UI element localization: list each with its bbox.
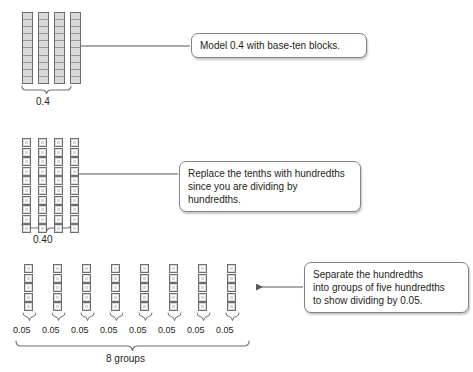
hundredth-unit bbox=[82, 264, 91, 273]
group-value-label: 0.05 bbox=[216, 325, 234, 336]
hundredth-unit bbox=[38, 148, 47, 157]
hundredth-unit bbox=[111, 293, 120, 302]
hundredth-unit bbox=[70, 215, 79, 224]
bracket-step-1 bbox=[22, 86, 71, 94]
hundredth-unit bbox=[82, 283, 91, 292]
hundredth-unit bbox=[38, 167, 47, 176]
hundredth-unit bbox=[22, 224, 31, 233]
hundredth-unit bbox=[227, 264, 236, 273]
hundredth-unit bbox=[22, 148, 31, 157]
hundredth-unit bbox=[53, 283, 62, 292]
bracket-label-step-2: 0.40 bbox=[33, 234, 52, 245]
hundredth-unit bbox=[22, 205, 31, 214]
bracket-label-step-1: 0.4 bbox=[36, 96, 50, 107]
hundredth-unit bbox=[169, 264, 178, 273]
hundredth-unit bbox=[54, 215, 63, 224]
hundredth-unit bbox=[54, 167, 63, 176]
hundredth-unit bbox=[198, 293, 207, 302]
group-value-label: 0.05 bbox=[100, 325, 118, 336]
hundredth-unit bbox=[198, 283, 207, 292]
hundredth-unit bbox=[70, 224, 79, 233]
hundredth-unit bbox=[111, 302, 120, 311]
hundredth-unit bbox=[140, 274, 149, 283]
figure-canvas: 0.4 Model 0.4 with base-ten blocks. 0.40… bbox=[0, 0, 473, 372]
hundredth-unit bbox=[38, 196, 47, 205]
callout-step-3: Separate the hundredths into groups of f… bbox=[304, 262, 469, 313]
hundredth-unit bbox=[111, 274, 120, 283]
tenth-rod bbox=[38, 12, 49, 84]
hundredth-unit bbox=[70, 205, 79, 214]
hundredth-unit bbox=[140, 302, 149, 311]
hundredth-unit bbox=[169, 302, 178, 311]
hundredth-unit bbox=[54, 148, 63, 157]
hundredth-unit bbox=[82, 293, 91, 302]
hundredth-unit bbox=[22, 138, 31, 147]
group-value-label: 0.05 bbox=[42, 325, 60, 336]
hundredth-unit bbox=[70, 196, 79, 205]
hundredth-unit bbox=[198, 302, 207, 311]
hundredth-unit bbox=[140, 283, 149, 292]
hundredth-unit bbox=[24, 302, 33, 311]
hundredth-unit bbox=[54, 157, 63, 166]
hundredth-unit bbox=[140, 293, 149, 302]
hundredth-unit bbox=[82, 274, 91, 283]
hundredth-unit bbox=[22, 157, 31, 166]
hundredth-unit bbox=[54, 205, 63, 214]
hundredth-unit bbox=[38, 138, 47, 147]
group-value-label: 0.05 bbox=[13, 325, 31, 336]
hundredth-unit bbox=[22, 186, 31, 195]
group-value-label: 0.05 bbox=[71, 325, 89, 336]
bracket-label-step-3: 8 groups bbox=[106, 353, 145, 364]
hundredth-unit bbox=[38, 186, 47, 195]
hundredth-unit bbox=[227, 302, 236, 311]
hundredth-unit bbox=[22, 176, 31, 185]
hundredth-unit bbox=[38, 215, 47, 224]
hundredth-unit bbox=[22, 215, 31, 224]
hundredth-unit bbox=[53, 274, 62, 283]
hundredth-unit bbox=[70, 176, 79, 185]
hundredth-unit bbox=[54, 176, 63, 185]
hundredth-unit bbox=[54, 196, 63, 205]
hundredth-unit bbox=[24, 283, 33, 292]
tenth-rod bbox=[54, 12, 65, 84]
hundredth-unit bbox=[82, 302, 91, 311]
hundredth-unit bbox=[53, 302, 62, 311]
hundredth-unit bbox=[70, 167, 79, 176]
hundredth-unit bbox=[198, 264, 207, 273]
hundredth-unit bbox=[111, 283, 120, 292]
hundredth-unit bbox=[22, 196, 31, 205]
hundredth-unit bbox=[38, 176, 47, 185]
hundredth-unit bbox=[54, 186, 63, 195]
hundredth-unit bbox=[169, 283, 178, 292]
group-value-label: 0.05 bbox=[187, 325, 205, 336]
hundredth-unit bbox=[227, 274, 236, 283]
hundredth-unit bbox=[38, 157, 47, 166]
hundredth-unit bbox=[70, 138, 79, 147]
tenth-rod bbox=[22, 12, 33, 84]
hundredth-unit bbox=[53, 264, 62, 273]
hundredth-unit bbox=[54, 138, 63, 147]
hundredth-unit bbox=[70, 157, 79, 166]
callout-step-2: Replace the tenths with hundredths since… bbox=[179, 161, 361, 212]
hundredth-unit bbox=[38, 224, 47, 233]
hundredth-unit bbox=[24, 274, 33, 283]
hundredth-unit bbox=[70, 148, 79, 157]
tenth-rod bbox=[70, 12, 81, 84]
hundredth-unit bbox=[198, 274, 207, 283]
hundredth-unit bbox=[140, 264, 149, 273]
group-value-label: 0.05 bbox=[158, 325, 176, 336]
hundredth-unit bbox=[111, 264, 120, 273]
callout-step-1: Model 0.4 with base-ten blocks. bbox=[191, 33, 367, 58]
bracket-step-3 bbox=[16, 341, 249, 351]
hundredth-unit bbox=[24, 293, 33, 302]
hundredth-unit bbox=[24, 264, 33, 273]
hundredth-unit bbox=[169, 274, 178, 283]
hundredth-unit bbox=[227, 293, 236, 302]
hundredth-unit bbox=[70, 186, 79, 195]
group-value-label: 0.05 bbox=[129, 325, 147, 336]
hundredth-unit bbox=[53, 293, 62, 302]
hundredth-unit bbox=[22, 167, 31, 176]
hundredth-unit bbox=[227, 283, 236, 292]
group-pointers bbox=[23, 313, 239, 321]
hundredth-unit bbox=[54, 224, 63, 233]
